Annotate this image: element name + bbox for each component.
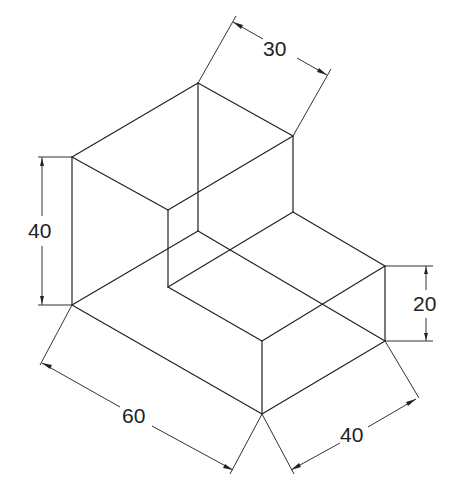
edge-top-front — [72, 157, 168, 210]
dimension-40-width: 40 — [262, 341, 419, 474]
isometric-drawing: 30 40 20 60 40 — [0, 0, 457, 498]
edge-step-back — [293, 212, 385, 266]
edge-top-back — [198, 83, 293, 136]
edge-step-left — [168, 287, 262, 341]
edge-bottom-left — [72, 305, 262, 414]
object-edges — [72, 83, 385, 414]
edge-bottom-right — [262, 341, 385, 414]
dimension-label-40-width: 40 — [340, 423, 363, 446]
edge-top-right — [168, 136, 293, 210]
dimension-60: 60 — [40, 305, 262, 474]
dimension-40-height: 40 — [28, 157, 72, 305]
dimension-label-40-height: 40 — [28, 219, 51, 242]
dimension-label-30: 30 — [263, 37, 286, 60]
edge-top-left — [72, 83, 198, 157]
edge-inner-diagonal-b — [198, 231, 385, 341]
dimension-30: 30 — [198, 16, 331, 136]
dimension-20: 20 — [385, 266, 436, 341]
dimension-label-60: 60 — [122, 404, 145, 427]
dimension-label-20: 20 — [413, 292, 436, 315]
